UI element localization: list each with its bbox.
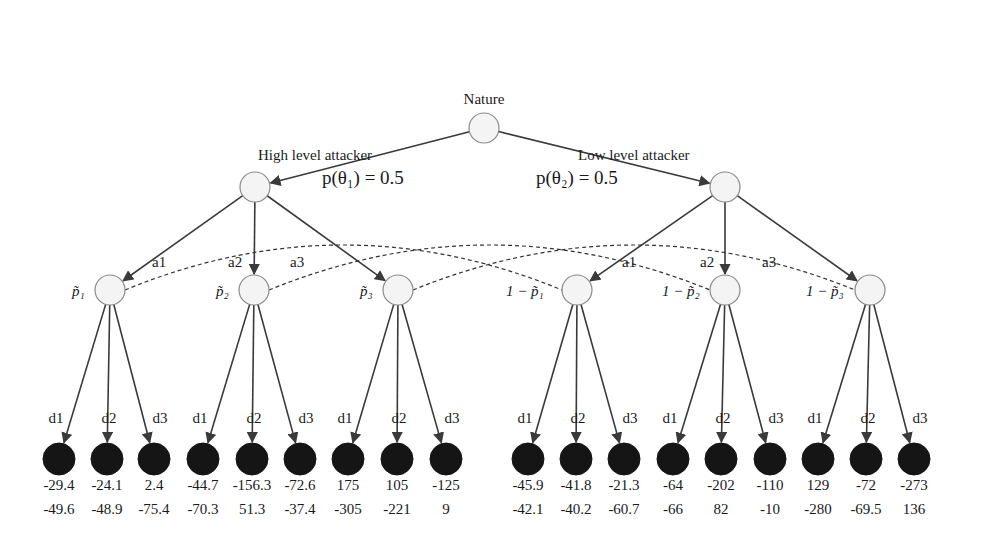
payoff-defender: -156.3 (233, 477, 272, 493)
attacker-action-label: a3 (290, 254, 304, 270)
terminal-node (754, 443, 786, 475)
payoff-defender: 175 (337, 477, 360, 493)
defender-action-edge (258, 304, 296, 442)
payoff-attacker: -305 (334, 501, 362, 517)
payoff-attacker: -280 (804, 501, 832, 517)
attacker-action-edge (267, 196, 385, 281)
payoff-defender: -45.9 (512, 477, 543, 493)
defender-action-label: d1 (338, 410, 353, 426)
information-set-link (125, 245, 562, 290)
payoff-attacker: 51.3 (239, 501, 265, 517)
defender-action-label: d3 (299, 410, 314, 426)
payoff-defender: -24.1 (91, 477, 122, 493)
payoff-defender: -44.7 (187, 477, 219, 493)
defender-action-edge (823, 304, 866, 442)
leaf-payoffs: -29.4-49.6-24.1-48.92.4-75.4-44.7-70.3-1… (43, 477, 927, 517)
attacker-action-label: a2 (228, 254, 242, 270)
terminal-node (802, 443, 834, 475)
terminal-node (512, 443, 544, 475)
terminal-node (608, 443, 640, 475)
defender-belief-node (95, 275, 125, 305)
belief-label: p̃₃ (359, 283, 373, 299)
payoff-attacker: 136 (903, 501, 926, 517)
defender-action-edge (402, 304, 441, 442)
defender-action-edge (581, 304, 619, 442)
terminal-node (236, 443, 268, 475)
terminal-node (43, 443, 75, 475)
defender-belief-node (383, 275, 413, 305)
terminal-node (91, 443, 123, 475)
payoff-attacker: -10 (760, 501, 780, 517)
information-set-link (269, 245, 710, 290)
terminal-node (332, 443, 364, 475)
defender-action-edge (208, 304, 250, 442)
belief-label: 1 − p̃₃ (806, 283, 844, 299)
defender-action-label: d3 (623, 410, 638, 426)
defender-action-edge (533, 304, 573, 442)
payoff-attacker: -37.4 (284, 501, 316, 517)
defender-action-label: d3 (769, 410, 784, 426)
attacker-action-edge (737, 196, 857, 281)
payoff-attacker: -48.9 (91, 501, 122, 517)
defender-action-label: d2 (102, 410, 117, 426)
terminal-node (381, 443, 413, 475)
payoff-attacker: -42.1 (512, 501, 543, 517)
terminal-node (187, 443, 219, 475)
payoff-attacker: -49.6 (43, 501, 75, 517)
defender-action-label: d2 (247, 410, 262, 426)
defender-action-label: d1 (663, 410, 678, 426)
defender-action-label: d2 (571, 410, 586, 426)
payoff-defender: 2.4 (145, 477, 164, 493)
defender-action-edge (353, 304, 394, 442)
defender-action-label: d2 (716, 410, 731, 426)
defender-belief-node (239, 275, 269, 305)
payoff-defender: -41.8 (560, 477, 591, 493)
attacker-action-label: a2 (700, 254, 714, 270)
payoff-attacker: -75.4 (138, 501, 170, 517)
type-probability-low: p(θ₂) = 0.5 (536, 167, 618, 189)
attacker-action-label: a1 (622, 254, 636, 270)
payoff-defender: -64 (663, 477, 683, 493)
defender-action-label: d3 (913, 410, 928, 426)
payoff-defender: -125 (432, 477, 460, 493)
payoff-attacker: 9 (442, 501, 450, 517)
payoff-defender: -21.3 (608, 477, 639, 493)
attacker-action-edge (123, 196, 243, 281)
defender-action-edge (114, 305, 150, 443)
terminal-node (284, 443, 316, 475)
defender-action-edge (678, 304, 721, 442)
terminal-node (430, 443, 462, 475)
type-branch-label-low: Low level attacker (578, 147, 690, 163)
edges-layer (64, 132, 910, 443)
nature-node (469, 113, 499, 143)
payoff-attacker: -69.5 (850, 501, 881, 517)
payoff-attacker: -60.7 (608, 501, 640, 517)
defender-action-labels: d1d2d3d1d2d3d1d2d3d1d2d3d1d2d3d1d2d3 (49, 410, 928, 426)
defender-action-label: d1 (49, 410, 64, 426)
defender-belief-node (562, 275, 592, 305)
payoff-attacker: -221 (383, 501, 411, 517)
payoff-defender: -72.6 (284, 477, 316, 493)
terminal-node (560, 443, 592, 475)
defender-action-label: d1 (193, 410, 208, 426)
payoff-attacker: -70.3 (187, 501, 218, 517)
payoff-defender: 105 (386, 477, 409, 493)
attacker-action-edge (590, 196, 713, 281)
payoff-defender: 129 (807, 477, 830, 493)
payoff-attacker: -40.2 (560, 501, 591, 517)
belief-label: 1 − p̃₂ (662, 283, 700, 299)
payoff-defender: -29.4 (43, 477, 75, 493)
defender-belief-node (855, 275, 885, 305)
defender-action-label: d2 (392, 410, 407, 426)
belief-label: 1 − p̃₁ (506, 283, 544, 299)
defender-action-edge (874, 305, 910, 443)
low-attacker-node (710, 172, 740, 202)
payoff-attacker: -66 (663, 501, 683, 517)
nodes-layer (43, 113, 930, 475)
type-probability-high: p(θ₁) = 0.5 (322, 167, 404, 189)
terminal-node (657, 443, 689, 475)
defender-action-edge (729, 304, 766, 442)
type-branch-label-high: High level attacker (258, 147, 372, 163)
terminal-node (898, 443, 930, 475)
defender-action-label: d3 (153, 410, 168, 426)
